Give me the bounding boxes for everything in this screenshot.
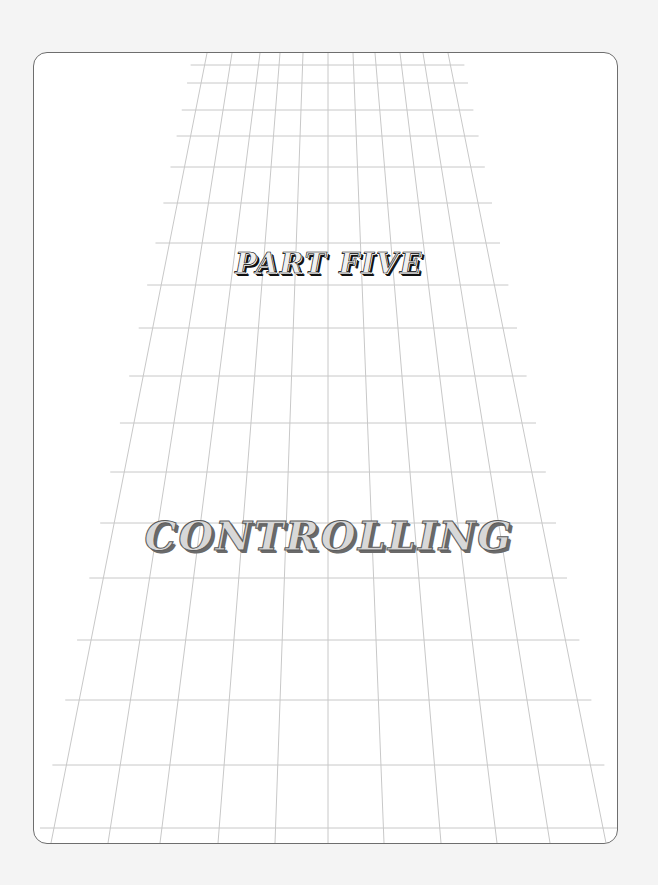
section-title: CONTROLLING bbox=[0, 512, 658, 559]
part-label: PART FIVE bbox=[0, 247, 658, 280]
perspective-grid bbox=[0, 0, 658, 885]
